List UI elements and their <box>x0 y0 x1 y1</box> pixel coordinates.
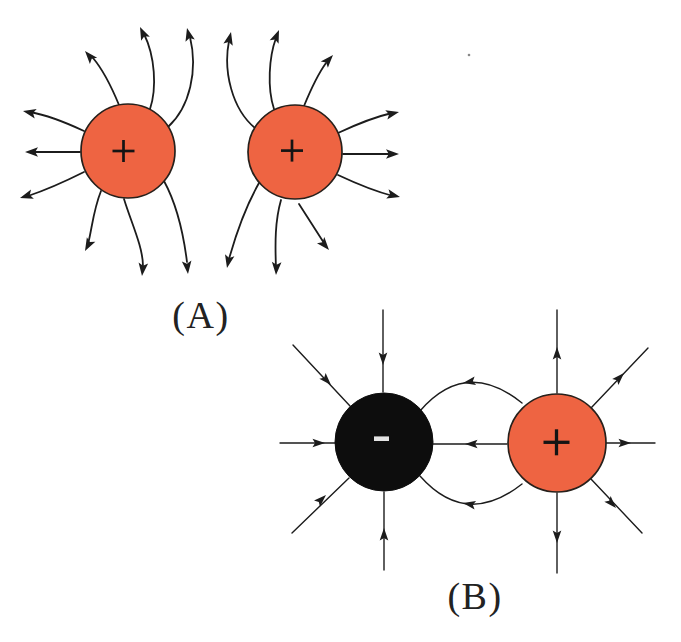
field-line <box>88 191 101 244</box>
field-line <box>270 38 276 109</box>
field-line <box>420 382 522 411</box>
field-line-arrowhead <box>604 496 619 511</box>
negative-charge <box>335 393 433 491</box>
field-line <box>591 479 642 533</box>
field-line <box>338 175 393 196</box>
field-line-arrowhead <box>182 27 194 42</box>
field-line-arrowhead <box>19 190 34 203</box>
field-line <box>420 476 522 504</box>
electric-field-diagram: (A) (B) <box>0 0 681 642</box>
field-line-arrowhead <box>222 254 234 269</box>
field-line <box>229 183 259 259</box>
field-line <box>30 112 84 131</box>
field-line <box>276 200 281 268</box>
field-line-arrowhead <box>317 237 333 253</box>
field-line <box>144 34 154 109</box>
field-line-arrowhead <box>223 31 235 46</box>
field-line <box>28 172 84 196</box>
field-line <box>293 345 350 406</box>
scan-speck <box>468 54 471 57</box>
field-line-arrowhead <box>321 52 337 68</box>
field-line <box>168 37 193 127</box>
field-line <box>93 58 119 105</box>
electric-field-figure-page: (A) (B) <box>0 0 681 642</box>
positive-charge <box>248 105 342 199</box>
field-line <box>164 181 187 262</box>
panel-a <box>19 25 402 277</box>
panel-a-label: (A) <box>172 294 229 337</box>
field-line <box>124 199 143 266</box>
field-line-arrowhead <box>136 25 150 41</box>
field-line <box>227 41 255 128</box>
field-line-arrowhead <box>270 28 284 44</box>
field-line-arrowhead <box>81 237 96 253</box>
field-line <box>299 204 324 243</box>
panel-b <box>280 310 655 573</box>
panel-b-label: (B) <box>447 575 502 618</box>
field-line <box>304 63 326 106</box>
field-line <box>338 113 392 133</box>
panels-root <box>19 25 655 573</box>
